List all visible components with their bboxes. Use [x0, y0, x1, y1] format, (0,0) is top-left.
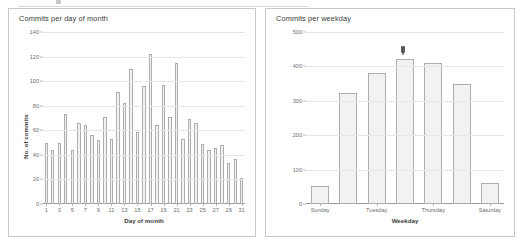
gridline	[43, 81, 245, 82]
bar[interactable]	[214, 148, 217, 205]
bar[interactable]	[396, 59, 414, 204]
bar[interactable]	[84, 125, 87, 204]
bar-series-commits-per-day	[43, 32, 245, 204]
x-tick-mark	[203, 204, 204, 206]
bar[interactable]	[97, 140, 100, 204]
chart-title-commits-per-day: Commits per day of month	[19, 14, 108, 23]
bar[interactable]	[201, 144, 204, 204]
x-tick-mark	[124, 204, 125, 206]
clipped-ruler-line	[18, 6, 308, 7]
bar[interactable]	[77, 123, 80, 204]
x-tick-mark	[111, 204, 112, 206]
x-tick-mark	[98, 204, 99, 206]
bar-series-commits-per-weekday	[306, 32, 504, 204]
x-tick-label: 1	[45, 207, 48, 213]
y-tick-mark	[303, 100, 306, 101]
bar[interactable]	[240, 178, 243, 204]
y-tick-mark	[303, 66, 306, 67]
x-tick-label: 23	[186, 207, 192, 213]
bar[interactable]	[155, 125, 158, 204]
y-tick-label: 500	[293, 29, 302, 35]
bar[interactable]	[71, 150, 74, 204]
bar[interactable]	[142, 86, 145, 204]
x-tick-label: 3	[58, 207, 61, 213]
chart-panel-commits-per-weekday: Commits per weekday Weekday 010020030040…	[265, 8, 515, 237]
x-tick-mark	[229, 204, 230, 206]
x-tick-label: 29	[226, 207, 232, 213]
bar[interactable]	[58, 143, 61, 204]
gridline	[43, 106, 245, 107]
x-tick-mark	[137, 204, 138, 206]
bar[interactable]	[481, 183, 499, 204]
gridline	[306, 170, 504, 171]
x-tick-mark	[377, 204, 378, 206]
x-tick-mark	[72, 204, 73, 206]
y-axis-title-left: No. of commits	[22, 114, 29, 159]
bar[interactable]	[207, 150, 210, 204]
gridline	[43, 155, 245, 156]
bar[interactable]	[175, 63, 178, 204]
bar[interactable]	[90, 135, 93, 204]
bar[interactable]	[194, 123, 197, 204]
x-tick-label: Thursday	[422, 207, 445, 213]
bar[interactable]	[424, 63, 442, 204]
x-tick-mark	[216, 204, 217, 206]
bar[interactable]	[51, 150, 54, 204]
gridline	[306, 101, 504, 102]
y-tick-label: 60	[33, 127, 39, 133]
x-tick-label: 31	[239, 207, 245, 213]
bar[interactable]	[110, 139, 113, 204]
bar[interactable]	[227, 163, 230, 204]
gridline	[306, 66, 504, 67]
y-tick-mark	[40, 179, 43, 180]
y-tick-mark	[40, 81, 43, 82]
clipped-top-strip	[0, 0, 523, 8]
y-tick-label: 20	[33, 176, 39, 182]
bar[interactable]	[368, 73, 386, 204]
y-tick-label: 300	[293, 98, 302, 104]
chart-panel-commits-per-day: Commits per day of month Day of month 02…	[8, 8, 256, 237]
bar[interactable]	[234, 159, 237, 204]
gridline	[43, 32, 245, 33]
x-tick-label: Sunday	[311, 207, 330, 213]
x-tick-label: 7	[84, 207, 87, 213]
x-tick-label: 9	[97, 207, 100, 213]
x-tick-mark	[320, 204, 321, 206]
bar[interactable]	[129, 69, 132, 204]
hover-cursor-marker-icon	[401, 46, 405, 53]
x-tick-mark	[164, 204, 165, 206]
x-tick-mark	[242, 204, 243, 206]
bar[interactable]	[64, 114, 67, 204]
x-tick-mark	[177, 204, 178, 206]
plot-area-commits-per-day: Day of month 020406080100120140135791113…	[43, 32, 245, 204]
bar[interactable]	[149, 54, 152, 204]
bar[interactable]	[188, 119, 191, 204]
screenshot-root: Commits per day of month Day of month 02…	[0, 0, 523, 244]
x-tick-mark	[59, 204, 60, 206]
plot-area-commits-per-weekday: Weekday 0100200300400500SundayTuesdayThu…	[306, 32, 504, 204]
bar[interactable]	[181, 139, 184, 204]
x-axis-title-left: Day of month	[43, 217, 245, 224]
x-tick-mark	[433, 204, 434, 206]
x-tick-label: 27	[213, 207, 219, 213]
y-tick-label: 200	[293, 132, 302, 138]
bar[interactable]	[45, 143, 48, 204]
bar[interactable]	[116, 92, 119, 204]
chart-title-commits-per-weekday: Commits per weekday	[276, 14, 351, 23]
gridline	[306, 32, 504, 33]
y-tick-mark	[303, 204, 306, 205]
y-tick-mark	[303, 32, 306, 33]
y-tick-label: 0	[299, 201, 302, 207]
y-tick-label: 120	[30, 54, 39, 60]
x-axis-title-right: Weekday	[306, 217, 504, 224]
bar[interactable]	[136, 132, 139, 204]
y-tick-mark	[303, 135, 306, 136]
bar[interactable]	[311, 186, 329, 204]
x-tick-label: 21	[173, 207, 179, 213]
x-tick-label: 5	[71, 207, 74, 213]
bar[interactable]	[123, 103, 126, 204]
y-tick-label: 40	[33, 152, 39, 158]
bar[interactable]	[162, 85, 165, 204]
bar[interactable]	[339, 93, 357, 204]
gridline	[43, 57, 245, 58]
